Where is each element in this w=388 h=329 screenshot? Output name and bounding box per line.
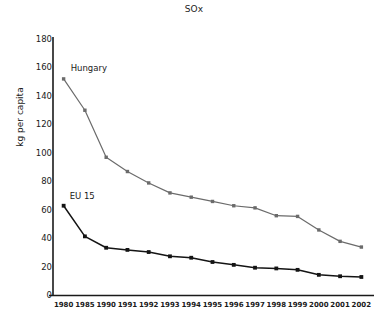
- data-point-marker: [168, 254, 172, 258]
- data-point-marker: [317, 273, 321, 277]
- data-point-marker: [338, 240, 341, 243]
- series-line-eu-15: [64, 206, 362, 277]
- data-point-marker: [275, 214, 278, 217]
- data-point-marker: [338, 274, 342, 278]
- data-point-marker: [104, 246, 108, 250]
- data-point-marker: [253, 266, 257, 270]
- data-point-marker: [126, 170, 129, 173]
- data-point-marker: [168, 191, 171, 194]
- data-point-marker: [232, 263, 236, 267]
- data-point-marker: [232, 204, 235, 207]
- series-label-eu-15: EU 15: [70, 191, 95, 201]
- data-point-marker: [189, 256, 193, 260]
- data-point-marker: [104, 156, 107, 159]
- data-point-marker: [317, 228, 320, 231]
- data-point-marker: [211, 200, 214, 203]
- data-point-marker: [147, 250, 151, 254]
- data-point-marker: [147, 181, 150, 184]
- data-point-marker: [62, 77, 65, 80]
- data-point-marker: [190, 195, 193, 198]
- series-line-hungary: [64, 79, 362, 247]
- plot-area: [0, 0, 388, 329]
- data-point-marker: [62, 204, 66, 208]
- data-point-marker: [296, 215, 299, 218]
- data-point-marker: [360, 245, 363, 248]
- data-point-marker: [296, 268, 300, 272]
- chart-figure: SOx kg per capita 0204060801001201401601…: [0, 0, 388, 329]
- data-point-marker: [359, 275, 363, 279]
- series-label-hungary: Hungary: [71, 63, 107, 73]
- data-point-marker: [274, 267, 278, 271]
- data-point-marker: [126, 248, 130, 252]
- data-point-marker: [83, 234, 87, 238]
- data-point-marker: [253, 206, 256, 209]
- data-point-marker: [83, 109, 86, 112]
- data-point-marker: [211, 260, 215, 264]
